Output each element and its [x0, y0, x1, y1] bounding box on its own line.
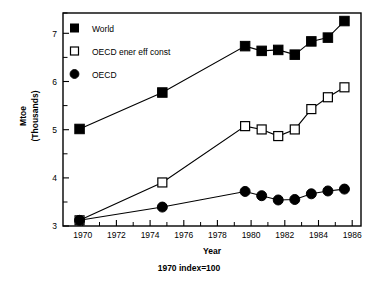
data-point — [273, 45, 283, 55]
x-axis-major-ticks — [83, 220, 353, 226]
series-line — [80, 189, 345, 220]
series-oecd-ener-eff-const — [75, 83, 349, 225]
chart-figure: 7 6 5 4 3 — [0, 0, 378, 281]
data-point — [257, 46, 267, 56]
x-tick-label: 1984 — [309, 230, 328, 240]
data-point — [240, 186, 250, 196]
legend-marker-filled-circle — [70, 70, 79, 79]
chart-legend: World OECD ener eff const OECD — [70, 24, 171, 80]
data-point — [290, 125, 299, 134]
data-point — [290, 50, 300, 60]
y-axis-tick-labels: 7 6 5 4 3 — [52, 29, 57, 232]
series-line — [80, 87, 345, 220]
series-line — [80, 21, 345, 129]
data-point — [75, 124, 85, 134]
y-axis-title-line2: (Thousands) — [30, 90, 40, 141]
legend-label-world: World — [92, 24, 114, 34]
y-tick-label: 4 — [52, 173, 57, 183]
y-tick-label: 7 — [52, 29, 57, 39]
data-point — [75, 215, 85, 225]
data-point — [307, 105, 316, 114]
x-tick-label: 1976 — [174, 230, 193, 240]
x-tick-label: 1986 — [343, 230, 362, 240]
data-point — [257, 125, 266, 134]
data-point — [274, 132, 283, 141]
data-point — [290, 194, 300, 204]
y-axis-title-line1: Mtoe — [18, 106, 28, 126]
line-chart: 7 6 5 4 3 — [0, 0, 378, 281]
data-point — [340, 16, 350, 26]
x-axis-tick-labels: 1970 1972 1974 1976 1978 1980 1982 1984 … — [73, 230, 362, 240]
y-axis-major-ticks — [63, 33, 69, 226]
data-point — [323, 33, 333, 43]
legend-label-oecd: OECD — [92, 70, 117, 80]
data-point — [158, 178, 167, 187]
data-point — [240, 41, 250, 51]
series-oecd — [75, 184, 350, 225]
data-point — [257, 191, 267, 201]
y-tick-label: 5 — [52, 125, 57, 135]
x-tick-label: 1980 — [242, 230, 261, 240]
x-axis-title: Year — [203, 246, 222, 256]
x-tick-label: 1972 — [107, 230, 126, 240]
data-point — [158, 88, 168, 98]
data-point — [307, 37, 317, 47]
data-point — [273, 195, 283, 205]
data-point — [339, 184, 349, 194]
data-point — [306, 189, 316, 199]
legend-marker-filled-square — [71, 24, 79, 32]
x-tick-label: 1982 — [275, 230, 294, 240]
x-tick-label: 1978 — [208, 230, 227, 240]
legend-marker-open-square — [71, 47, 79, 55]
data-point — [340, 83, 349, 92]
data-point — [323, 186, 333, 196]
data-point — [323, 93, 332, 102]
x-tick-label: 1974 — [141, 230, 160, 240]
x-tick-label: 1970 — [73, 230, 92, 240]
legend-label-oecd-ener-eff-const: OECD ener eff const — [92, 47, 171, 57]
chart-caption: 1970 index=100 — [158, 263, 221, 273]
data-point — [241, 122, 250, 131]
data-point — [157, 202, 167, 212]
y-tick-label: 3 — [52, 221, 57, 231]
y-tick-label: 6 — [52, 77, 57, 87]
